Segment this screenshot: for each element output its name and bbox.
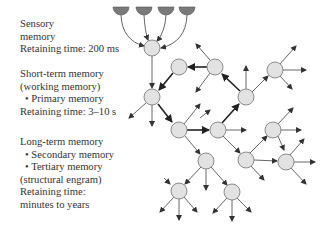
receptor-icon xyxy=(113,7,129,15)
sensory-receptors xyxy=(113,7,195,15)
receptor-icon xyxy=(179,7,195,15)
memory-diagram: Sensory memory Retaining time: 200 ms Sh… xyxy=(0,0,329,232)
neuron-node xyxy=(198,153,214,169)
neuron-node xyxy=(144,89,160,105)
neuron-node xyxy=(171,122,187,138)
neuron-node xyxy=(171,59,187,75)
neuron-node xyxy=(238,89,254,105)
neuron-node xyxy=(210,122,226,138)
neuron-node xyxy=(207,59,223,75)
neuron-node xyxy=(267,62,283,78)
neural-network-graph xyxy=(0,0,329,232)
neuron-node xyxy=(278,154,294,170)
neuron-node xyxy=(238,152,254,168)
neuron-node xyxy=(171,183,187,199)
neuron-node xyxy=(144,40,160,56)
receptor-icon xyxy=(158,7,174,15)
receptor-icon xyxy=(136,7,152,15)
neuron-node xyxy=(265,122,281,138)
neuron-node xyxy=(224,184,240,200)
